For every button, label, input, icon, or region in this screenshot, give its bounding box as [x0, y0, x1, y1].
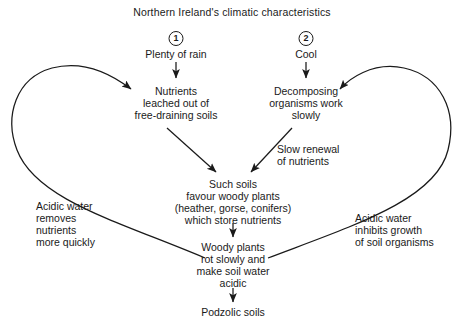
node-such-soils-line1: Such soils — [209, 178, 257, 190]
node-nutrients-leached-line1: Nutrients — [155, 85, 197, 97]
edge-label-acidic-inhibits-line3: of soil organisms — [355, 236, 434, 248]
node-such-soils-line3: (heather, gorse, conifers) — [175, 202, 292, 214]
node-woody-plants-rot-line1: Woody plants — [201, 241, 264, 253]
node-podzolic-soils: Podzolic soils — [201, 306, 265, 318]
marker-2-badge: 2 — [299, 31, 314, 46]
node-cool: Cool — [295, 48, 317, 60]
arrow-nutrients-to-such-soils — [167, 128, 216, 172]
edge-label-slow-renewal-line2: of nutrients — [277, 155, 329, 167]
page-title: Northern Ireland's climatic characterist… — [133, 6, 331, 18]
node-such-soils-line4: which store nutrients — [185, 214, 281, 226]
marker-1-badge: 1 — [169, 31, 184, 46]
edge-label-acidic-removes-line1: Acidic water — [36, 200, 93, 212]
node-woody-plants-rot-line4: acidic — [220, 277, 247, 289]
node-woody-plants-rot-line2: rot slowly and — [201, 253, 265, 265]
climate-soil-flow-diagram: Northern Ireland's climatic characterist… — [0, 0, 465, 327]
node-nutrients-leached-line2: leached out of — [143, 97, 209, 109]
node-nutrients-leached-line3: free-draining soils — [135, 109, 218, 121]
node-decomposing-organisms-line2: organisms work — [269, 97, 343, 109]
edge-label-acidic-inhibits-line2: inhibits growth — [355, 224, 422, 236]
node-such-soils-line2: favour woody plants — [186, 190, 279, 202]
edge-label-acidic-removes-line4: more quickly — [36, 236, 95, 248]
node-decomposing-organisms-line1: Decomposing — [274, 85, 338, 97]
edge-label-acidic-removes-line2: removes — [36, 212, 76, 224]
edge-label-acidic-inhibits-line1: Acidic water — [355, 212, 412, 224]
node-decomposing-organisms-line3: slowly — [292, 109, 321, 121]
node-plenty-of-rain: Plenty of rain — [145, 48, 206, 60]
edge-label-acidic-removes-line3: nutrients — [36, 224, 76, 236]
edge-label-slow-renewal-line1: Slow renewal — [277, 143, 339, 155]
node-woody-plants-rot-line3: make soil water — [197, 265, 270, 277]
